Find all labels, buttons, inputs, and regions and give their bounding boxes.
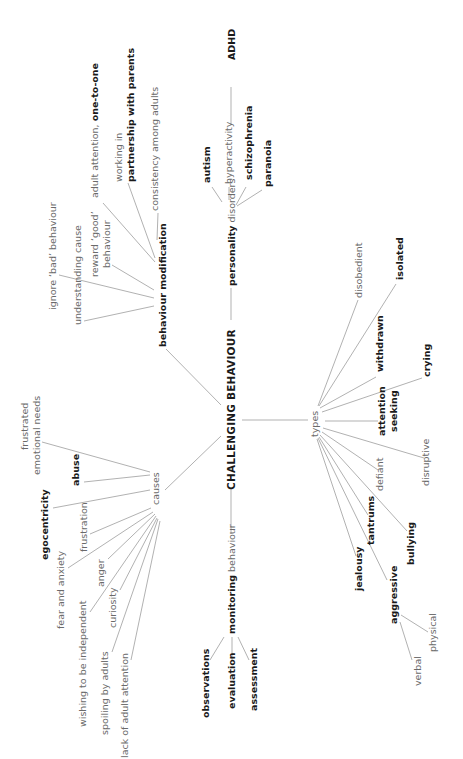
consistency-among-adults-label: consistency among adults <box>149 87 160 211</box>
abuse-label: abuse <box>70 454 81 486</box>
understanding-cause-label: understanding cause <box>72 225 83 325</box>
schizophrenia-label: schizophrenia <box>243 106 254 180</box>
line-central-causes <box>165 436 221 490</box>
line-jealousy <box>317 439 356 556</box>
crying-label: crying <box>421 344 432 377</box>
disruptive-label: disruptive <box>420 438 431 486</box>
line-tantrums <box>319 437 368 515</box>
monitoring-behaviour-label: monitoring behaviour <box>226 524 237 634</box>
adhd-label: ADHD <box>226 29 237 60</box>
line-frustration <box>90 508 151 534</box>
adult-attention-label: adult attention, one-to-one <box>89 63 100 198</box>
line-egocentricity <box>53 490 150 508</box>
spoiling-by-adults-label: spoiling by adults <box>99 651 110 735</box>
evaluation-label: evaluation <box>226 652 237 709</box>
ignore-bad-behaviour-label: ignore ‘bad’ behaviour <box>47 202 58 310</box>
attention-seeking-label-2: seeking <box>388 390 399 432</box>
mind-map-svg: CHALLENGING BEHAVIOUR personality disord… <box>0 0 463 759</box>
curiosity-label: curiosity <box>107 587 118 628</box>
line-paranoia <box>237 190 262 206</box>
mind-map-diagram: CHALLENGING BEHAVIOUR personality disord… <box>0 0 463 759</box>
bullying-label: bullying <box>405 522 416 565</box>
branch-behaviour-modification: behaviour modification understanding cau… <box>47 48 168 347</box>
causes-label: causes <box>150 472 161 505</box>
fear-and-anxiety-label: fear and anxiety <box>55 550 66 629</box>
line-curiosity <box>120 518 157 590</box>
line-verbal <box>400 622 412 660</box>
branch-personality-disorders: personality disorders autism hyperactivi… <box>201 29 273 286</box>
monitoring-label-bold: monitoring <box>226 575 237 634</box>
central-node-label: CHALLENGING BEHAVIOUR <box>225 329 237 490</box>
egocentricity-label: egocentricity <box>39 488 50 560</box>
personality-label-bold: personality <box>226 225 237 286</box>
line-central-modification <box>166 349 221 405</box>
lack-of-adult-attention-label: lack of adult attention <box>119 653 130 758</box>
branch-types: types disobedient isolated withdrawn cry… <box>309 237 438 686</box>
partnership-with-parents-label: partnership with parents <box>125 48 136 182</box>
jealousy-label: jealousy <box>353 546 364 592</box>
frustration-label: frustration <box>78 502 89 552</box>
types-label: types <box>309 411 320 437</box>
frustrated-label-1: frustrated <box>19 403 30 450</box>
withdrawn-label: withdrawn <box>374 315 385 372</box>
observations-label: observations <box>200 648 211 718</box>
paranoia-label: paranoia <box>262 140 273 187</box>
assessment-label: assessment <box>248 647 259 711</box>
line-abuse <box>84 475 150 482</box>
isolated-label: isolated <box>394 237 405 280</box>
anger-label: anger <box>95 559 106 587</box>
reward-good-label-1: reward ‘good’ <box>89 211 100 277</box>
branch-causes: causes frustrated emotional needs abuse … <box>19 396 161 758</box>
line-crying <box>322 378 422 412</box>
wishing-to-be-independent-label: wishing to be independent <box>77 600 88 727</box>
line-spoiling <box>112 519 158 652</box>
hyperactivity-label: hyperactivity <box>223 121 234 184</box>
line-autism <box>212 187 222 202</box>
line-lack <box>131 521 160 660</box>
autism-label: autism <box>201 146 212 183</box>
verbal-label: verbal <box>412 656 423 686</box>
working-in-label: working in <box>113 133 124 182</box>
personality-disorders-label: personality disorders <box>226 178 237 286</box>
defiant-label: defiant <box>374 457 385 491</box>
disobedient-label: disobedient <box>353 242 364 298</box>
personality-label-regular: disorders <box>226 178 237 225</box>
line-schizophrenia <box>236 187 246 205</box>
aggressive-label: aggressive <box>388 566 399 624</box>
adult-attention-bold: one-to-one <box>89 63 100 121</box>
line-understanding <box>84 306 154 321</box>
reward-good-label-2: behaviour <box>101 220 112 268</box>
line-reward <box>112 265 154 290</box>
branch-monitoring-behaviour: monitoring behaviour observations evalua… <box>200 524 259 718</box>
monitoring-label-regular: behaviour <box>226 524 237 575</box>
line-frustrated <box>42 442 150 472</box>
tantrums-label: tantrums <box>365 495 376 545</box>
behaviour-modification-label: behaviour modification <box>157 223 168 347</box>
frustrated-label-2: emotional needs <box>31 396 42 475</box>
physical-label: physical <box>427 613 438 652</box>
line-physical <box>401 615 428 632</box>
attention-seeking-label-1: attention <box>376 386 387 436</box>
adult-attention-regular: adult attention, <box>89 121 100 198</box>
line-observations <box>210 637 224 660</box>
